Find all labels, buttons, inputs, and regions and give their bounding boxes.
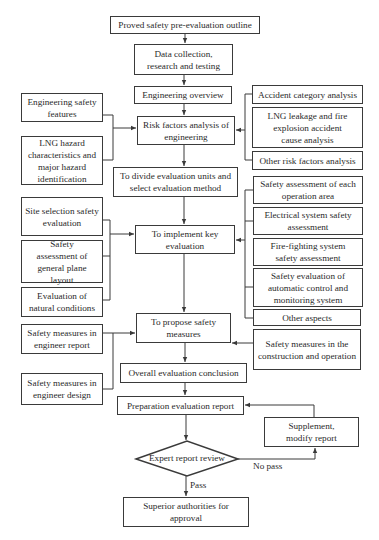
eng-safety-features-label: Engineering safety features — [25, 96, 99, 120]
construction-operation-box: Safety measures in the construction and … — [253, 329, 361, 370]
expert-review-label: Expert report review — [149, 453, 225, 463]
divide-units-box: To divide evaluation units and select ev… — [113, 167, 238, 197]
accident-category-box: Accident category analysis — [252, 85, 363, 104]
no-pass-label: No pass — [253, 461, 282, 472]
other-aspects-label: Other aspects — [282, 312, 332, 324]
implement-key-box: To implement key evaluation — [135, 225, 235, 254]
outline-box: Proved safety pre-evaluation outline — [110, 16, 260, 34]
construction-operation-label: Safety measures in the construction and … — [257, 338, 357, 362]
data-collection-box: Data collection, research and testing — [134, 44, 233, 75]
propose-measures-box: To propose safety measures — [136, 313, 231, 343]
outline-label: Proved safety pre-evaluation outline — [118, 19, 251, 31]
automatic-control-label: Safety evaluation of automatic control a… — [257, 270, 359, 306]
natural-conditions-label: Evaluation of natural conditions — [25, 290, 99, 314]
plane-layout-box: Safety assessment of general plane layou… — [21, 240, 103, 283]
accident-category-label: Accident category analysis — [258, 89, 357, 101]
pass-label: Pass — [190, 480, 206, 491]
superior-approval-box: Superior authorities for approval — [123, 497, 249, 527]
data-collection-label: Data collection, research and testing — [138, 48, 229, 72]
each-operation-box: Safety assessment of each operation area — [253, 176, 363, 204]
eng-safety-features-box: Engineering safety features — [21, 93, 103, 122]
superior-approval-label: Superior authorities for approval — [127, 500, 245, 524]
lng-leakage-label: LNG leakage and fire explosion accident … — [263, 110, 352, 146]
electrical-label: Electrical system safety assessment — [257, 209, 359, 233]
propose-measures-label: To propose safety measures — [140, 316, 227, 340]
fire-fighting-label: Fire-fighting system safety assessment — [268, 240, 348, 264]
other-aspects-box: Other aspects — [253, 309, 361, 326]
other-risk-label: Other risk factors analysis — [259, 155, 355, 167]
risk-factors-box: Risk factors analysis of engineering — [137, 116, 235, 145]
prep-report-label: Preparation evaluation report — [127, 400, 234, 412]
natural-conditions-box: Evaluation of natural conditions — [21, 287, 103, 317]
engineering-overview-label: Engineering overview — [142, 89, 223, 101]
lng-leakage-box: LNG leakage and fire explosion accident … — [252, 107, 363, 148]
plane-layout-label: Safety assessment of general plane layou… — [31, 238, 93, 286]
site-selection-box: Site selection safety evaluation — [21, 197, 103, 236]
supplement-modify-label: Supplement, modify report — [275, 420, 348, 444]
automatic-control-box: Safety evaluation of automatic control a… — [253, 268, 363, 307]
measures-report-label: Safety measures in engineer report — [25, 327, 99, 351]
fire-fighting-box: Fire-fighting system safety assessment — [253, 238, 363, 266]
implement-key-label: To implement key evaluation — [139, 228, 231, 252]
lng-hazard-label: LNG hazard characteristics and major haz… — [25, 137, 99, 185]
measures-design-label: Safety measures in engineer design — [25, 377, 99, 401]
overall-conclusion-label: Overall evaluation conclusion — [128, 367, 238, 379]
engineering-overview-box: Engineering overview — [134, 86, 232, 104]
risk-factors-label: Risk factors analysis of engineering — [141, 119, 231, 143]
overall-conclusion-box: Overall evaluation conclusion — [120, 363, 247, 383]
electrical-box: Electrical system safety assessment — [253, 207, 363, 235]
measures-report-box: Safety measures in engineer report — [21, 324, 103, 354]
lng-hazard-box: LNG hazard characteristics and major haz… — [21, 136, 103, 185]
divide-units-label: To divide evaluation units and select ev… — [117, 170, 234, 194]
other-risk-box: Other risk factors analysis — [252, 151, 363, 170]
expert-review-decision: Expert report review — [136, 453, 238, 464]
measures-design-box: Safety measures in engineer design — [21, 373, 103, 405]
site-selection-label: Site selection safety evaluation — [25, 205, 99, 229]
supplement-modify-box: Supplement, modify report — [264, 417, 359, 447]
each-operation-label: Safety assessment of each operation area — [257, 178, 359, 202]
prep-report-box: Preparation evaluation report — [117, 396, 244, 415]
